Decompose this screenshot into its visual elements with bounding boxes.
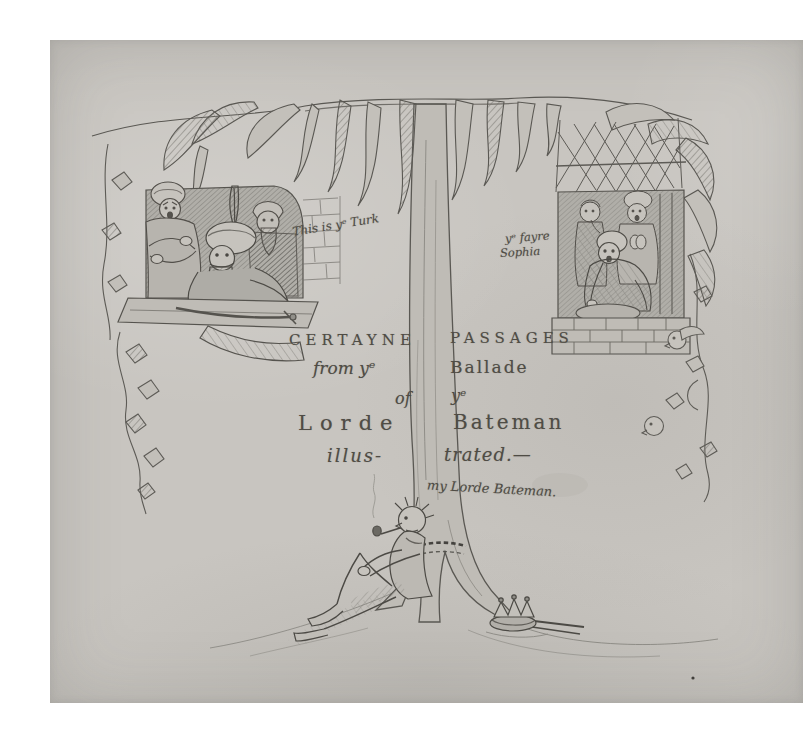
seated-lord-bateman [294,474,434,641]
title-word-lorde: Lorde [298,411,401,435]
right-window-scene [552,118,690,354]
caption-sophia-line2: Sophia [500,244,541,260]
paper-sheet: This is yᵉ Turk yᵉ fayre Sophia CERTAYNE… [50,40,803,703]
title-word-ye: yᵉ [451,386,466,405]
title-word-of: of [395,389,411,408]
title-word-from-ye: from yᵉ [313,358,375,378]
title-word-passages: PASSAGES [450,329,574,347]
title-word-illus: illus- [327,445,383,466]
title-word-ballade: Ballade [450,357,529,377]
foliate-face-2 [642,417,664,436]
artwork-photo: { "artwork": { "kind": "pencil drawing /… [0,0,803,741]
title-word-bateman: Bateman [453,410,564,434]
title-word-trated: trated.— [444,444,532,465]
drawing [50,40,803,703]
title-word-certayne: CERTAYNE [289,331,416,349]
ground [210,588,718,680]
